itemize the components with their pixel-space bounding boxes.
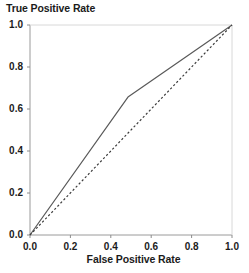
y-tick-label: 0.2 [0,187,23,198]
y-tick-label: 0.8 [0,61,23,72]
data-series-layer [30,25,232,235]
x-tick-label: 1.0 [219,241,245,252]
y-tick-label: 0.0 [0,229,23,240]
x-axis-title: False Positive Rate [0,253,249,265]
roc-chart: True Positive Rate 0.00.20.40.60.81.0 0.… [0,0,249,273]
y-tick-label: 1.0 [0,19,23,30]
x-tick-label: 0.2 [57,241,83,252]
series-line [30,25,232,235]
x-tick-label: 0.0 [17,241,43,252]
y-tick-label: 0.6 [0,103,23,114]
x-tick-label: 0.8 [179,241,205,252]
x-tick-label: 0.6 [138,241,164,252]
plot-canvas [0,0,249,273]
x-axis-title-text: False Positive Rate [69,253,181,265]
x-tick-label: 0.4 [98,241,124,252]
y-tick-label: 0.4 [0,145,23,156]
